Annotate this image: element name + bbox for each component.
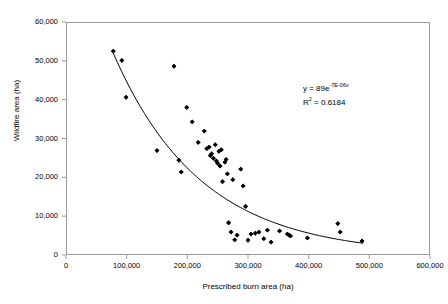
r-squared-line: R2 = 0.6184 xyxy=(303,94,349,108)
x-axis-tick-label: 400,000 xyxy=(279,262,339,270)
data-point xyxy=(305,236,310,241)
y-axis-tick-label: 60,000 xyxy=(14,18,58,26)
data-point xyxy=(335,221,340,226)
y-axis-tick-label: 20,000 xyxy=(14,173,58,181)
x-axis-tick-label: 0 xyxy=(36,262,96,270)
data-point xyxy=(241,183,246,188)
data-point xyxy=(213,142,218,147)
x-axis-tick-label: 500,000 xyxy=(339,262,399,270)
data-point xyxy=(179,169,184,174)
y-axis-tick-label: 30,000 xyxy=(14,135,58,143)
y-axis-tick-label: 50,000 xyxy=(14,57,58,65)
data-point xyxy=(338,230,343,235)
data-point xyxy=(190,119,195,124)
data-point xyxy=(172,64,177,69)
data-point xyxy=(230,177,235,182)
x-axis-tick-label: 600,000 xyxy=(400,262,448,270)
data-point xyxy=(196,140,201,145)
data-point xyxy=(184,105,189,110)
y-axis-tick-label: 40,000 xyxy=(14,96,58,104)
data-point xyxy=(253,231,258,236)
data-point xyxy=(155,148,160,153)
data-point xyxy=(243,204,248,209)
equation-prefix: y = 89e xyxy=(303,84,329,93)
data-point xyxy=(124,95,129,100)
data-point xyxy=(111,49,116,54)
trendline-equation-annotation: y = 89e-7E-06x R2 = 0.6184 xyxy=(303,80,349,108)
data-point xyxy=(225,171,230,176)
scatter-chart: 010,00020,00030,00040,00050,00060,000 01… xyxy=(0,0,448,304)
y-axis-title: Wildfire area (ha) xyxy=(12,51,21,171)
data-point xyxy=(176,158,181,163)
data-point xyxy=(246,238,251,243)
data-point xyxy=(261,236,266,241)
y-axis-tick-marks xyxy=(62,22,66,255)
data-point xyxy=(257,230,262,235)
data-point xyxy=(238,167,243,172)
data-point xyxy=(265,228,270,233)
x-axis-title: Prescribed burn area (ha) xyxy=(66,282,430,291)
x-axis-tick-marks xyxy=(66,255,430,259)
y-axis-tick-label: 10,000 xyxy=(14,212,58,220)
data-point xyxy=(249,232,254,237)
data-point xyxy=(235,233,240,238)
x-axis-tick-label: 100,000 xyxy=(97,262,157,270)
data-point xyxy=(277,229,282,234)
data-point xyxy=(229,230,234,235)
data-point xyxy=(119,58,124,63)
y-axis-tick-label: 0 xyxy=(14,251,58,259)
x-axis-tick-label: 200,000 xyxy=(157,262,217,270)
x-axis-tick-label: 300,000 xyxy=(218,262,278,270)
data-point xyxy=(202,129,207,134)
r-squared-value: = 0.6184 xyxy=(312,98,346,107)
chart-canvas xyxy=(0,0,448,304)
equation-exponent: -7E-06x xyxy=(329,82,348,88)
equation-line: y = 89e-7E-06x xyxy=(303,80,349,94)
data-point xyxy=(220,179,225,184)
data-point xyxy=(269,240,274,245)
data-points xyxy=(111,49,365,245)
data-point xyxy=(226,220,231,225)
data-point xyxy=(232,237,237,242)
